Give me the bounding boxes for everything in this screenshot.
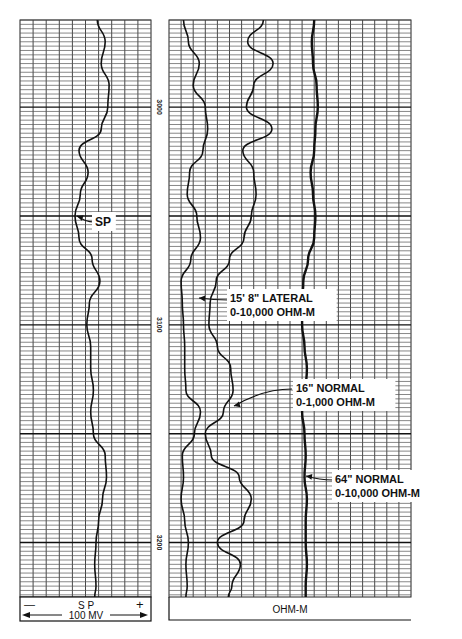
label-text: 16" NORMAL (296, 382, 365, 394)
normal-16-curve-label: 16" NORMAL0-1,000 OHM-M (293, 379, 395, 411)
depth-tick-label: 3000 (156, 99, 163, 115)
lateral-curve-label: 15' 8" LATERAL0-10,000 OHM-M (227, 289, 337, 321)
sp-footer-scale: 100 MV (69, 610, 104, 621)
label-text: 0-1,000 OHM-M (296, 396, 375, 408)
label-text: 0-10,000 OHM-M (230, 306, 315, 318)
sp-track-footer: — + S P 100 MV (20, 597, 151, 621)
label-text: SP (95, 215, 111, 229)
resistivity-track-footer: OHM-M (169, 597, 411, 620)
resistivity-footer-title: OHM-M (273, 604, 308, 615)
sp-track-grid (20, 20, 151, 597)
sp-curve-label: SP (92, 212, 116, 231)
label-text: 15' 8" LATERAL (230, 292, 313, 304)
well-log-diagram: SP15' 8" LATERAL0-10,000 OHM-M16" NORMAL… (0, 0, 462, 639)
depth-tick-label: 3200 (156, 535, 163, 551)
sp-minus-sign: — (24, 598, 35, 610)
depth-axis: 300031003200 (156, 99, 163, 550)
depth-tick-label: 3100 (156, 317, 163, 333)
label-text: 64" NORMAL (335, 473, 404, 485)
normal-64-curve-label: 64" NORMAL0-10,000 OHM-M (332, 470, 442, 502)
sp-plus-sign: + (136, 597, 144, 612)
label-text: 0-10,000 OHM-M (335, 487, 420, 499)
